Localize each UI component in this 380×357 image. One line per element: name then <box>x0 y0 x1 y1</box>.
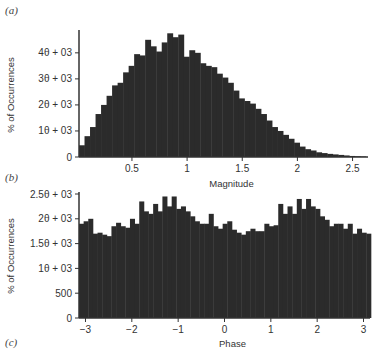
histogram-bar <box>79 224 84 318</box>
histogram-bar <box>135 224 140 318</box>
x-axis-title: Phase <box>219 338 246 349</box>
histogram-bar <box>121 226 126 318</box>
histogram-bar <box>233 91 239 157</box>
histogram-bar <box>149 214 154 318</box>
x-tick-label: −3 <box>80 324 92 335</box>
histogram-bar <box>237 233 242 318</box>
histogram-bar <box>306 199 311 318</box>
histogram-bar <box>200 63 206 157</box>
histogram-bar <box>107 236 112 318</box>
histogram-bar <box>178 35 184 157</box>
histogram-bar <box>167 33 173 157</box>
histogram-bar <box>255 231 260 318</box>
histogram-bar <box>244 101 250 157</box>
histogram-bar <box>278 204 283 318</box>
histogram-bar <box>264 224 269 318</box>
histogram-bar <box>167 206 172 318</box>
histogram-bar <box>232 230 237 318</box>
histogram-bar <box>228 83 234 157</box>
histogram-bar <box>199 224 204 318</box>
histogram-bar <box>320 216 325 318</box>
histogram-bar <box>134 54 140 157</box>
x-axis-title: Magnitude <box>209 178 253 189</box>
histogram-bar <box>222 78 228 157</box>
histogram-bar <box>123 72 129 157</box>
histogram-bar <box>186 211 191 318</box>
histogram-bar <box>334 224 339 318</box>
histogram-bar <box>218 229 223 318</box>
y-tick-label: 2.5θ + 03 <box>30 189 72 200</box>
histogram-bar <box>98 233 103 318</box>
histogram-bar <box>292 214 297 318</box>
histogram-bar <box>204 224 209 318</box>
histogram-bar <box>283 135 289 157</box>
histogram-bar <box>297 199 302 318</box>
histogram-bar <box>139 201 144 318</box>
histogram-bar <box>301 209 306 318</box>
histogram-bar <box>255 109 261 157</box>
histogram-bar <box>283 214 288 318</box>
histogram-bar <box>269 226 274 318</box>
y-tick-label: 1.5θ + 03 <box>30 238 72 249</box>
y-tick-label: 1θ + 03 <box>38 125 72 136</box>
histogram-bar <box>116 223 121 318</box>
x-tick-label: 1.5 <box>235 163 249 174</box>
histogram-bar <box>140 55 146 157</box>
histogram-bar <box>130 219 135 318</box>
histogram-bar <box>162 42 168 157</box>
histogram-bar <box>172 196 177 318</box>
y-axis-title: % of Occurrences <box>5 57 16 133</box>
histogram-bar <box>118 83 124 157</box>
histogram-bar <box>267 121 273 157</box>
histogram-bar <box>272 127 278 157</box>
histogram-bar <box>315 209 320 318</box>
histogram-bar <box>93 234 98 318</box>
histogram-bar <box>250 229 255 318</box>
chart-panel-b: 05001θ + 031.5θ + 032θ + 032.5θ + 03−3−2… <box>5 189 371 350</box>
x-tick-label: 1 <box>184 163 190 174</box>
histogram-bar <box>213 226 218 318</box>
histogram-bar <box>158 211 163 318</box>
x-tick-label: 2.5 <box>346 163 360 174</box>
histogram-bar <box>217 74 223 157</box>
histogram-bar <box>211 67 217 157</box>
histogram-bars <box>79 196 371 318</box>
x-tick-label: −1 <box>172 324 184 335</box>
x-tick-label: 0.5 <box>125 163 139 174</box>
histogram-bar <box>348 224 353 318</box>
histogram-bar <box>241 235 246 318</box>
histogram-bar <box>90 127 96 157</box>
histogram-bar <box>84 221 89 318</box>
histogram-bar <box>184 57 190 157</box>
histogram-bar <box>223 224 228 318</box>
x-tick-label: −2 <box>126 324 138 335</box>
histogram-bar <box>96 114 102 157</box>
histogram-bar <box>209 214 214 318</box>
histogram-bar <box>274 225 279 318</box>
y-tick-label: 3θ + 03 <box>38 73 72 84</box>
histogram-bar <box>173 37 179 157</box>
x-tick-label: 2 <box>314 324 320 335</box>
histogram-bar <box>79 145 85 157</box>
histogram-bar <box>206 66 212 157</box>
y-tick-label: 2θ + 03 <box>38 213 72 224</box>
y-axis-title: % of Occurrences <box>5 218 16 294</box>
histogram-bar <box>227 221 232 318</box>
histogram-bar <box>246 231 251 318</box>
histogram-bar <box>250 104 256 157</box>
histogram-figure: 01θ + 032θ + 033θ + 034θ + 030.511.522.5… <box>0 0 380 357</box>
x-tick-label: 1 <box>268 324 274 335</box>
histogram-bar <box>151 46 157 157</box>
y-tick-label: 1θ + 03 <box>38 263 72 274</box>
histogram-bar <box>156 52 162 157</box>
histogram-bar <box>129 66 135 157</box>
histogram-bar <box>162 196 167 318</box>
histogram-bar <box>153 204 158 318</box>
y-tick-label: 0 <box>66 152 72 163</box>
histogram-bar <box>145 40 151 157</box>
histogram-bar <box>362 233 367 318</box>
histogram-bar <box>278 131 284 157</box>
histogram-bar <box>305 149 311 157</box>
histogram-bar <box>107 96 113 157</box>
histogram-bars <box>79 33 366 157</box>
